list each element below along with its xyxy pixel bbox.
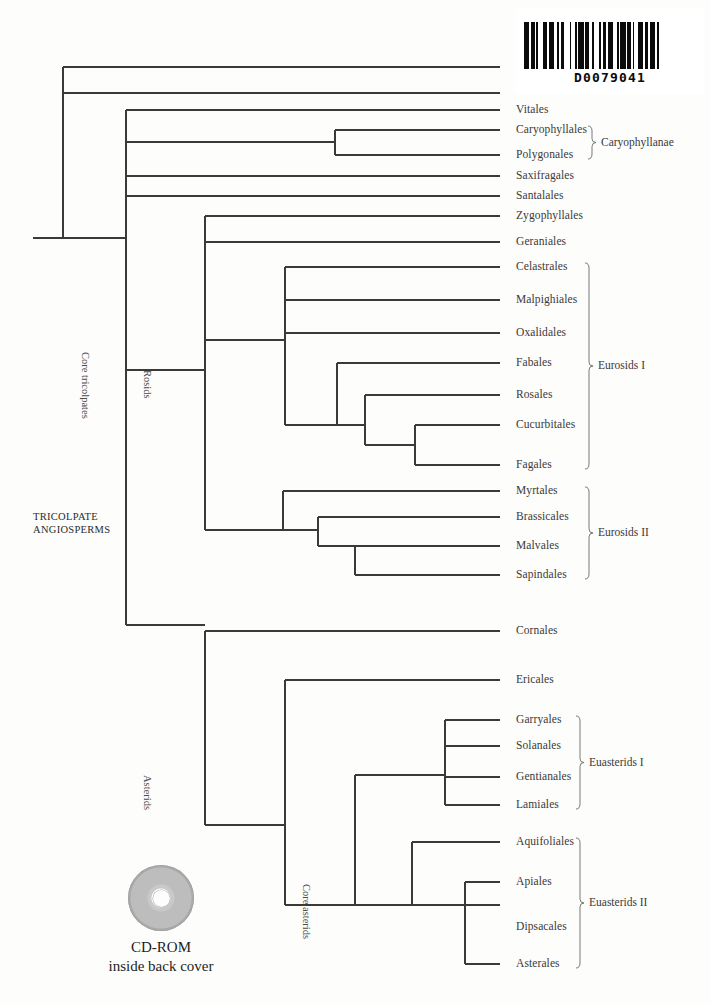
tip-label-myrtales: Myrtales (516, 485, 558, 497)
tip-label-cornales: Cornales (516, 625, 558, 637)
tip-label-dipsacales: Dipsacales (516, 921, 567, 933)
tip-label-fabales: Fabales (516, 357, 552, 369)
tip-label-asterales: Asterales (516, 958, 560, 970)
tip-label-brassicales: Brassicales (516, 511, 569, 523)
barcode-bar (557, 22, 559, 69)
barcode-bar (638, 22, 643, 69)
barcode-bar (585, 22, 589, 69)
clade-label-eurosids-ii: Eurosids II (598, 527, 649, 539)
barcode-bar (617, 22, 619, 69)
phylogenetic-tree (0, 0, 710, 1003)
node-label-core-tricolpates: Core tricolpates (80, 352, 91, 419)
tip-label-solanales: Solanales (516, 740, 561, 752)
tip-label-geraniales: Geraniales (516, 236, 566, 248)
tip-label-ericales: Ericales (516, 674, 554, 686)
node-label-rosids: Rosids (142, 370, 153, 399)
tip-label-fagales: Fagales (516, 459, 552, 471)
tip-label-garryales: Garryales (516, 714, 562, 726)
barcode-bar (599, 22, 601, 69)
clade-label-eurosids-i: Eurosids I (598, 360, 645, 372)
tip-label-malvales: Malvales (516, 540, 559, 552)
tip-label-vitales: Vitales (516, 104, 549, 116)
tip-label-gentianales: Gentianales (516, 771, 571, 783)
cdrom-note: CD-ROM inside back cover (61, 865, 261, 976)
tip-label-malpighiales: Malpighiales (516, 294, 577, 306)
tip-label-cucurbitales: Cucurbitales (516, 419, 575, 431)
barcode-bar (575, 22, 577, 69)
barcode-bar (536, 22, 538, 69)
node-label-core-asterids: Core asterids (301, 884, 312, 939)
tip-label-polygonales: Polygonales (516, 149, 573, 161)
barcode-bar (570, 22, 572, 69)
tip-label-rosales: Rosales (516, 389, 552, 401)
barcode-bar (592, 22, 594, 69)
clade-label-caryophyllanae: Caryophyllanae (601, 137, 674, 149)
root-label: TRICOLPATE ANGIOSPERMS (33, 510, 110, 536)
tip-label-celastrales: Celastrales (516, 261, 568, 273)
barcode-bar (657, 22, 659, 69)
barcode-bar (603, 22, 607, 69)
barcode-bar (633, 22, 635, 69)
barcode-bar (627, 22, 631, 69)
clade-label-euasterids-i: Euasterids I (589, 757, 644, 769)
tip-label-lamiales: Lamiales (516, 799, 559, 811)
barcode-number: D0079041 (516, 70, 704, 85)
barcode-bars (524, 22, 696, 69)
barcode-bar (561, 22, 565, 69)
barcode-bar (608, 22, 613, 69)
cd-disc-icon (128, 865, 194, 931)
diagram-canvas: D0079041 VitalesCaryophyllalesPolygonale… (0, 0, 710, 1003)
tip-label-oxalidales: Oxalidales (516, 327, 566, 339)
barcode: D0079041 (516, 8, 704, 94)
barcode-bar (645, 22, 649, 69)
barcode-bar (650, 22, 655, 69)
tip-label-santalales: Santalales (516, 190, 564, 202)
tip-label-sapindales: Sapindales (516, 569, 567, 581)
tip-label-zygophyllales: Zygophyllales (516, 210, 583, 222)
barcode-bar (531, 22, 535, 69)
barcode-bar (620, 22, 625, 69)
tip-label-aquifoliales: Aquifoliales (516, 836, 574, 848)
barcode-bar (524, 22, 529, 69)
cdrom-line1: CD-ROM (61, 938, 261, 957)
barcode-bar (543, 22, 547, 69)
tip-label-caryophyllales: Caryophyllales (516, 124, 587, 136)
barcode-bar (549, 22, 554, 69)
clade-label-euasterids-ii: Euasterids II (589, 897, 647, 909)
cdrom-line2: inside back cover (61, 957, 261, 976)
barcode-bar (578, 22, 583, 69)
cdrom-caption: CD-ROM inside back cover (61, 938, 261, 976)
tip-label-saxifragales: Saxifragales (516, 170, 574, 182)
node-label-asterids: Asterids (142, 775, 153, 810)
tip-label-apiales: Apiales (516, 876, 552, 888)
